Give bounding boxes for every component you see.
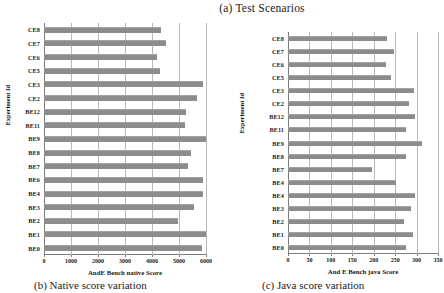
bar: [288, 154, 406, 159]
category-label: BE12: [269, 113, 284, 120]
x-tick-label: 2000: [92, 258, 104, 264]
bar-rows-native: CE8CE7CE6CE5CE3CE2BE12BE11BE9BE8BE7BE6BE…: [44, 23, 206, 255]
x-tick-label: 5000: [173, 258, 185, 264]
bar-row: BE2: [288, 215, 438, 228]
gridline: [438, 32, 439, 254]
x-tick-mark: [395, 254, 396, 256]
plot-area-native: CE8CE7CE6CE5CE3CE2BE12BE11BE9BE8BE7BE6BE…: [44, 23, 206, 255]
bar-row: CE7: [288, 45, 438, 58]
bar-row: BE9: [288, 137, 438, 150]
bar-row: BE11: [288, 123, 438, 136]
x-tick-label: 0: [43, 258, 46, 264]
bar: [44, 109, 186, 115]
x-tick-label: 3000: [119, 258, 131, 264]
bar-row: CE8: [44, 23, 206, 37]
bar: [288, 245, 406, 250]
bar: [288, 232, 413, 237]
bar: [44, 68, 160, 74]
figure-title: (a) Test Scenarios: [0, 2, 444, 14]
x-tick-mark: [417, 254, 418, 256]
x-tick-label: 250: [391, 257, 400, 263]
bar-row: BE3: [44, 200, 206, 214]
x-tick-mark: [152, 255, 153, 257]
category-label: CE2: [28, 95, 40, 102]
category-label: CE5: [272, 74, 284, 81]
bar: [288, 36, 387, 41]
bar-rows-java: CE8CE7CE6CE5CE3CE2BE12BE11BE9BE8BE7BE4BE…: [288, 32, 438, 254]
bar-row: CE3: [288, 84, 438, 97]
chart-panel-java: Experiment Id CE8CE7CE6CE5CE3CE2BE12BE11…: [222, 18, 444, 293]
x-tick-label: 50: [306, 257, 312, 263]
bar-row: CE6: [288, 58, 438, 71]
plot-area-java: CE8CE7CE6CE5CE3CE2BE12BE11BE9BE8BE7BE4BE…: [288, 32, 438, 254]
bar: [288, 141, 422, 146]
category-label: BE11: [270, 126, 285, 133]
bar-row: BE2: [44, 214, 206, 228]
bar: [288, 62, 386, 67]
bar-row: CE2: [288, 97, 438, 110]
category-label: BE6: [28, 176, 40, 183]
bar: [44, 136, 206, 142]
bar-row: BE4: [288, 176, 438, 189]
caption-java: (c) Java score variation: [262, 279, 364, 291]
bar: [44, 81, 203, 87]
y-axis-label-java: Experiment Id: [238, 118, 245, 134]
bar-row: CE6: [44, 50, 206, 64]
category-label: BE1: [272, 231, 284, 238]
bar: [44, 245, 202, 251]
bar: [44, 95, 197, 101]
category-label: BE0: [272, 244, 284, 251]
x-tick-mark: [331, 254, 332, 256]
category-label: CE2: [272, 100, 284, 107]
bar-row: CE7: [44, 37, 206, 51]
bar-row: BE1: [288, 228, 438, 241]
bar: [44, 40, 166, 46]
bar: [288, 114, 415, 119]
category-label: CE7: [272, 48, 284, 55]
category-label: BE4: [272, 179, 284, 186]
category-label: BE7: [28, 163, 40, 170]
x-tick-label: 200: [369, 257, 378, 263]
bar-row: CE5: [44, 64, 206, 78]
bar-row: CE2: [44, 91, 206, 105]
bar-row: BE11: [44, 118, 206, 132]
category-label: BE12: [25, 108, 40, 115]
category-label: CE6: [28, 54, 40, 61]
bar-row: BE7: [44, 159, 206, 173]
bar-row: BE6: [44, 173, 206, 187]
bar: [288, 88, 414, 93]
bar-row: CE5: [288, 71, 438, 84]
bar: [44, 204, 194, 210]
bar: [44, 218, 178, 224]
bar: [44, 54, 157, 60]
bar: [288, 193, 415, 198]
x-tick-mark: [179, 255, 180, 257]
x-tick-mark: [206, 255, 207, 257]
bar-row: CE8: [288, 32, 438, 45]
bar: [44, 122, 185, 128]
bar-row: BE8: [44, 146, 206, 160]
category-label: CE6: [272, 61, 284, 68]
category-label: BE9: [272, 140, 284, 147]
category-label: BE2: [272, 218, 284, 225]
bar-row: BE0: [288, 241, 438, 254]
x-tick-mark: [352, 254, 353, 256]
bar-row: BE9: [44, 132, 206, 146]
bar-row: BE1: [44, 228, 206, 242]
x-tick-label: 0: [287, 257, 290, 263]
category-label: CE8: [28, 26, 40, 33]
bar: [44, 27, 161, 33]
bar-row: BE0: [44, 241, 206, 255]
x-axis-label-java: And E Bench java Score: [288, 268, 438, 275]
category-label: BE8: [28, 149, 40, 156]
bar: [288, 180, 396, 185]
chart-panel-native: Experiment Id CE8CE7CE6CE5CE3CE2BE12BE11…: [0, 18, 222, 293]
bar: [288, 219, 404, 224]
bar: [288, 49, 394, 54]
x-tick-mark: [288, 254, 289, 256]
category-label: CE5: [28, 67, 40, 74]
category-label: BE3: [28, 204, 40, 211]
x-tick-mark: [309, 254, 310, 256]
bar: [288, 75, 391, 80]
bar-row: BE8: [288, 150, 438, 163]
